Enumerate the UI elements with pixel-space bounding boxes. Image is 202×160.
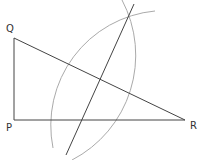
label-p: P xyxy=(6,123,12,133)
label-q: Q xyxy=(6,24,14,34)
segment-qr xyxy=(14,38,185,120)
arc-centered-q xyxy=(51,11,155,148)
construction-svg xyxy=(0,0,202,160)
diagram-canvas: Q P R xyxy=(0,0,202,160)
label-r: R xyxy=(190,121,197,131)
perpendicular-bisector xyxy=(66,4,134,155)
arc-centered-r xyxy=(72,0,136,160)
